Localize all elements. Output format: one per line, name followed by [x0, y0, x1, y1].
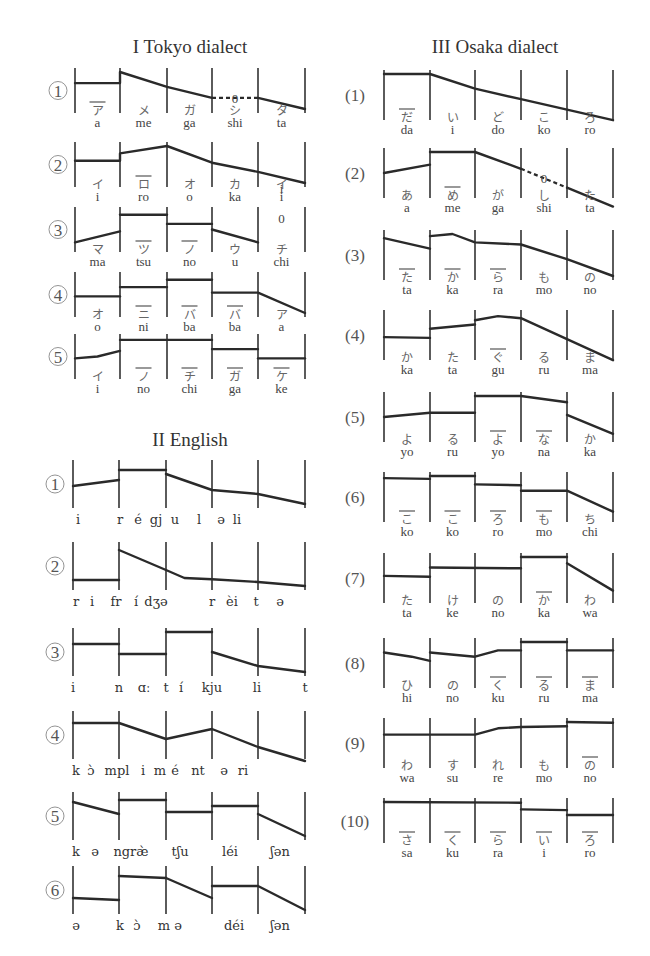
pitch-contour-line — [521, 809, 567, 810]
romaji-label: ga — [183, 115, 196, 130]
osaka-row: (2)0あaめmeがgaしshiたta — [345, 148, 613, 215]
row-number: (7) — [345, 569, 365, 588]
english-row: 2rifrídʒərèitə — [46, 542, 305, 609]
phonetic-label: déi — [224, 918, 244, 933]
romaji-label: yo — [401, 444, 414, 459]
phonetic-label: ɑː — [138, 680, 151, 695]
pitch-contour-line — [75, 231, 120, 242]
phonetic-label: fr — [110, 594, 122, 609]
romaji-label: i — [542, 845, 546, 860]
tokyo-row: 10アaメmeガgaシshiタta — [49, 68, 305, 130]
english-row: 4kɔ̀mpliméntəri — [46, 711, 305, 778]
romaji-label: na — [538, 444, 551, 459]
pitch-contour-line — [384, 337, 430, 338]
romaji-label: da — [401, 122, 414, 137]
romaji-label: chi — [582, 524, 598, 539]
phonetic-label: ɔ̀ — [133, 918, 140, 933]
phonetic-label: i — [76, 512, 80, 527]
pitch-contour-line — [73, 898, 119, 900]
romaji-label: ta — [402, 605, 412, 620]
romaji-label: ma — [582, 362, 598, 377]
row-number: 4 — [54, 286, 63, 305]
pitch-contour-line — [567, 415, 613, 434]
phonetic-label: k — [72, 763, 80, 778]
romaji-label: ru — [539, 362, 550, 377]
phonetic-label: ə — [91, 844, 99, 859]
phonetic-label: l — [197, 512, 201, 527]
phonetic-label: m — [154, 763, 166, 778]
romaji-label: ta — [277, 115, 287, 130]
phonetic-label: m — [158, 918, 170, 933]
phonetic-label: ri — [238, 763, 248, 778]
phonetic-label: ʃən — [268, 918, 290, 933]
romaji-label: o — [186, 189, 193, 204]
phonetic-label: èi — [226, 594, 238, 609]
romaji-label: re — [493, 770, 503, 785]
phonetic-label: ngræ̀ — [113, 844, 148, 859]
phonetic-label: kju — [202, 680, 222, 695]
romaji-label: a — [95, 115, 101, 130]
phonetic-label: li — [233, 512, 241, 527]
romaji-label: me — [445, 200, 461, 215]
phonetic-label: r — [117, 512, 124, 527]
romaji-label: no — [492, 605, 505, 620]
pitch-contour-line — [75, 72, 212, 98]
pitch-contour-line — [475, 484, 521, 485]
english-panel: 1irégjuləli2rifrídʒərèitə3inɑːtíkjulit4k… — [46, 460, 308, 933]
english-section-title: II English — [152, 429, 228, 450]
romaji-label: chi — [274, 254, 290, 269]
osaka-row: (5)よyoるruよyoなnaかka — [345, 392, 613, 459]
pitch-contour-line — [73, 480, 119, 486]
romaji-label: yo — [492, 444, 505, 459]
row-number: 1 — [54, 82, 63, 101]
romaji-label: ro — [585, 122, 596, 137]
row-number: 5 — [51, 807, 60, 826]
romaji-label: ke — [275, 381, 288, 396]
romaji-label: hi — [402, 690, 413, 705]
pitch-contour-line — [119, 876, 166, 878]
pitch-contour-line — [166, 474, 305, 504]
row-number: (2) — [345, 164, 365, 183]
osaka-row: (9)わwaすsuれreもmoのno — [345, 718, 613, 785]
pitch-contour-line — [73, 802, 119, 814]
osaka-panel: (1)だdaいiどdoこkoろro(2)0あaめmeがgaしshiたta(3)た… — [341, 70, 613, 860]
tokyo-panel: 10アaメmeガgaシshiタta2イiロroオoカkaイi3マmaツtsuノn… — [49, 68, 305, 396]
phonetic-label: ə — [174, 918, 182, 933]
romaji-label: no — [584, 770, 597, 785]
phonetic-label: k — [72, 844, 80, 859]
romaji-label: i — [451, 122, 455, 137]
romaji-label: ta — [402, 282, 412, 297]
romaji-label: ro — [138, 189, 149, 204]
romaji-label: no — [446, 690, 459, 705]
phonetic-label: mpl — [105, 763, 130, 778]
phonetic-label: ə — [217, 512, 225, 527]
romaji-label: ba — [229, 319, 242, 334]
row-number: (8) — [345, 654, 365, 673]
romaji-label: ra — [493, 282, 503, 297]
osaka-section-title: III Osaka dialect — [432, 36, 559, 57]
phonetic-label: ə — [276, 594, 284, 609]
romaji-label: a — [404, 200, 410, 215]
romaji-label: a — [279, 319, 285, 334]
tokyo-row: 4オoニniバbaバbaアa — [49, 272, 305, 334]
romaji-label: i — [96, 189, 100, 204]
phonetic-label: léi — [222, 844, 238, 859]
pitch-contour-line — [430, 325, 475, 329]
romaji-label: ko — [446, 524, 459, 539]
phonetic-label: ə — [72, 918, 80, 933]
row-number: (10) — [341, 812, 369, 831]
romaji-label: wa — [399, 770, 414, 785]
row-number: (6) — [345, 488, 365, 507]
romaji-label: ro — [493, 524, 504, 539]
romaji-label: ku — [446, 845, 460, 860]
phonetic-label: k — [116, 918, 124, 933]
pitch-contour-line — [384, 653, 430, 661]
pitch-contour-line — [384, 478, 430, 479]
osaka-row: (1)だdaいiどdoこkoろro — [345, 70, 613, 137]
row-number: 6 — [51, 881, 60, 900]
phonetic-label: t — [163, 680, 169, 695]
romaji-label: ga — [492, 200, 505, 215]
row-number: 3 — [51, 643, 60, 662]
romaji-label: ma — [90, 254, 106, 269]
pitch-contour-line — [212, 230, 258, 243]
